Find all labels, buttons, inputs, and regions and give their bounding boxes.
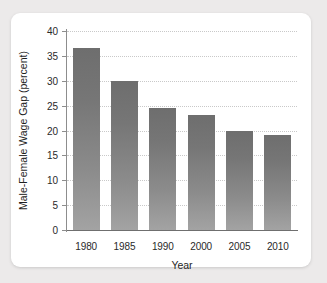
- bar-group: 2010: [259, 31, 297, 230]
- y-tick-label: 10: [47, 175, 58, 186]
- y-tick-label: 40: [47, 26, 58, 37]
- bar[interactable]: [111, 81, 138, 230]
- y-tick-label: 15: [47, 150, 58, 161]
- bar[interactable]: [264, 135, 291, 230]
- y-tick-label: 25: [47, 100, 58, 111]
- bar[interactable]: [226, 131, 253, 230]
- bar[interactable]: [73, 48, 100, 230]
- y-tick-label: 5: [53, 200, 58, 211]
- y-tick-label: 20: [47, 125, 58, 136]
- x-axis-line: [66, 230, 298, 231]
- bar-group: 2000: [182, 31, 220, 230]
- y-axis-title: Male-Female Wage Gap (percent): [17, 31, 31, 230]
- x-tick-label: 1985: [114, 241, 136, 252]
- x-tick-label: 2000: [190, 241, 212, 252]
- bar-group: 1980: [67, 31, 105, 230]
- x-tick-label: 1980: [75, 241, 97, 252]
- chart-card: Male-Female Wage Gap (percent) 051015202…: [11, 13, 311, 267]
- bar-group: 2005: [220, 31, 258, 230]
- bar[interactable]: [149, 108, 176, 230]
- y-tick-label: 35: [47, 50, 58, 61]
- y-tick-label: 30: [47, 75, 58, 86]
- bar-group: 1985: [105, 31, 143, 230]
- bar[interactable]: [188, 115, 215, 230]
- x-tick-label: 2010: [267, 241, 289, 252]
- y-tick-label: 0: [53, 225, 58, 236]
- plot-area: 0510152025303540 19801985199020002005201…: [67, 31, 297, 230]
- y-tick-mark: [62, 230, 67, 231]
- x-tick-label: 2005: [229, 241, 251, 252]
- bar-group: 1990: [144, 31, 182, 230]
- x-axis-title: Year: [67, 259, 297, 271]
- x-tick-label: 1990: [152, 241, 174, 252]
